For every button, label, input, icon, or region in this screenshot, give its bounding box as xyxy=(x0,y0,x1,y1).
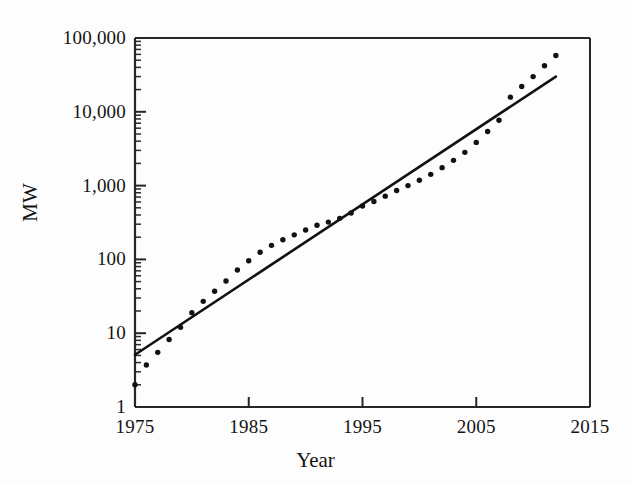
data-point xyxy=(337,216,342,221)
trend-line-path xyxy=(135,77,556,355)
data-point xyxy=(405,183,410,188)
y-tick-label: 100 xyxy=(97,248,126,270)
data-point xyxy=(496,117,501,122)
x-axis-major-ticks xyxy=(135,397,590,407)
data-point xyxy=(144,362,149,367)
data-point xyxy=(428,172,433,177)
data-point xyxy=(201,299,206,304)
y-tick-label: 1,000 xyxy=(82,175,126,197)
data-point xyxy=(257,250,262,255)
data-point xyxy=(155,350,160,355)
data-point xyxy=(246,258,251,263)
data-point xyxy=(280,237,285,242)
data-point xyxy=(485,129,490,134)
data-point xyxy=(508,94,513,99)
x-tick-label: 2015 xyxy=(571,416,610,438)
y-tick-label: 10 xyxy=(107,322,126,344)
data-point xyxy=(348,210,353,215)
data-point xyxy=(360,203,365,208)
data-point xyxy=(394,188,399,193)
data-point xyxy=(371,199,376,204)
y-axis-title: MW xyxy=(18,183,43,223)
data-point xyxy=(132,382,137,387)
chart-figure: 1101001,00010,000100,000 197519851995200… xyxy=(0,0,631,484)
data-point xyxy=(439,165,444,170)
data-point-series xyxy=(132,53,558,388)
trend-line xyxy=(135,77,556,355)
data-point xyxy=(326,219,331,224)
data-point xyxy=(269,243,274,248)
data-point xyxy=(462,150,467,155)
data-point xyxy=(383,193,388,198)
x-tick-label: 1975 xyxy=(116,416,155,438)
x-tick-label: 1985 xyxy=(229,416,268,438)
data-point xyxy=(519,84,524,89)
x-tick-label: 1995 xyxy=(343,416,382,438)
data-point xyxy=(178,325,183,330)
x-tick-label: 2005 xyxy=(457,416,496,438)
y-tick-label: 1 xyxy=(116,396,126,418)
data-point xyxy=(417,178,422,183)
plot-canvas xyxy=(0,0,631,484)
data-point xyxy=(314,223,319,228)
data-point xyxy=(451,158,456,163)
x-axis-title: Year xyxy=(0,448,631,473)
data-point xyxy=(474,140,479,145)
data-point xyxy=(212,289,217,294)
data-point xyxy=(166,337,171,342)
data-point xyxy=(303,227,308,232)
data-point xyxy=(542,63,547,68)
data-point xyxy=(223,278,228,283)
y-tick-label: 10,000 xyxy=(73,101,126,123)
data-point xyxy=(292,232,297,237)
y-tick-label: 100,000 xyxy=(63,27,126,49)
data-point xyxy=(553,53,558,58)
data-point xyxy=(189,310,194,315)
data-point xyxy=(235,267,240,272)
data-point xyxy=(530,74,535,79)
